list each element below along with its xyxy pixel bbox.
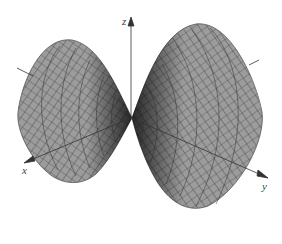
x-axis-label: x	[21, 164, 27, 176]
right-lobe	[132, 24, 262, 208]
surface-plot: z x y	[0, 0, 282, 244]
z-axis-label: z	[121, 15, 127, 27]
y-axis-label: y	[261, 180, 267, 192]
z-axis	[128, 17, 134, 118]
